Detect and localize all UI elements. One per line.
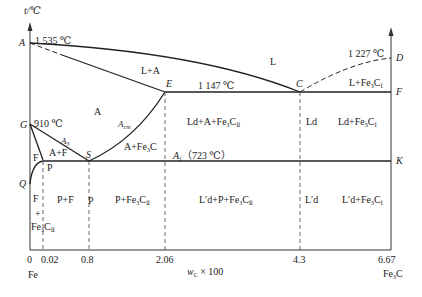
region-Ld2-Fe3C-I: L′d+Fe3CⅠ (342, 195, 383, 206)
point-K: K (396, 156, 403, 166)
region-Ld-Fe3C-I: Ld+Fe3CⅠ (338, 117, 377, 128)
point-S: S (86, 150, 91, 160)
point-G: G (20, 120, 27, 130)
temp-ECF: 1 147 ℃ (198, 81, 234, 91)
point-A: A (19, 38, 25, 48)
point-C: C (296, 79, 303, 89)
region-F-bottom: F (33, 194, 39, 204)
region-plus: + (35, 209, 41, 219)
x-axis-label: wC × 100 (187, 267, 223, 278)
solvus-PQ (30, 161, 43, 184)
x-tick-4.3: 4.3 (293, 255, 306, 265)
point-P: P (47, 163, 53, 173)
region-Ld-A-Fe3C-II: Ld+A+Fe3CⅡ (187, 117, 240, 128)
region-F-top: F (33, 153, 39, 163)
region-Ld2: L′d (305, 195, 318, 205)
x-axis-right-end: Fe3C (383, 269, 403, 280)
temp-D: 1 227 ℃ (348, 49, 384, 59)
region-Ld: Ld (306, 117, 317, 127)
region-A: A (94, 107, 101, 117)
liquidus-AC (30, 43, 300, 92)
point-Q: Q (19, 179, 26, 189)
region-L-A: L+A (141, 66, 160, 76)
region-P-Fe3C-II: P+Fe3CⅡ (115, 195, 150, 206)
region-A-F: A+F (49, 148, 67, 158)
x-axis-left-end: Fe (28, 270, 38, 280)
label-Acm: Acm (118, 120, 131, 130)
region-Fe3C-II: Fe3CⅡ (31, 222, 55, 233)
right-axis-arrow-icon (389, 27, 394, 36)
x-tick-2.06: 2.06 (156, 255, 174, 265)
point-F: F (396, 87, 402, 97)
x-tick-0.8: 0.8 (81, 255, 94, 265)
temp-PSK: A1（723 ℃） (173, 151, 231, 162)
temp-A: 1 535 ℃ (35, 36, 71, 46)
x-tick-0: 0 (27, 255, 32, 265)
region-A-Fe3C: A+Fe3C (124, 142, 157, 153)
x-tick-0.02: 0.02 (41, 255, 59, 265)
region-L-Fe3C-I: L+Fe3CⅠ (349, 78, 383, 89)
y-axis-arrow-icon (28, 22, 33, 31)
region-P-F: P+F (57, 195, 74, 205)
region-Ld2-P-Fe3C-II: L′d+P+Fe3CⅡ (199, 195, 253, 206)
temp-G: 910 ℃ (34, 119, 63, 129)
point-E: E (166, 79, 172, 89)
x-tick-6.67: 6.67 (378, 255, 396, 265)
label-A3: A3 (61, 137, 70, 147)
y-axis-label: t/℃ (24, 6, 41, 16)
region-P: P (88, 196, 94, 206)
point-D: D (396, 53, 403, 63)
region-L: L (270, 57, 276, 67)
